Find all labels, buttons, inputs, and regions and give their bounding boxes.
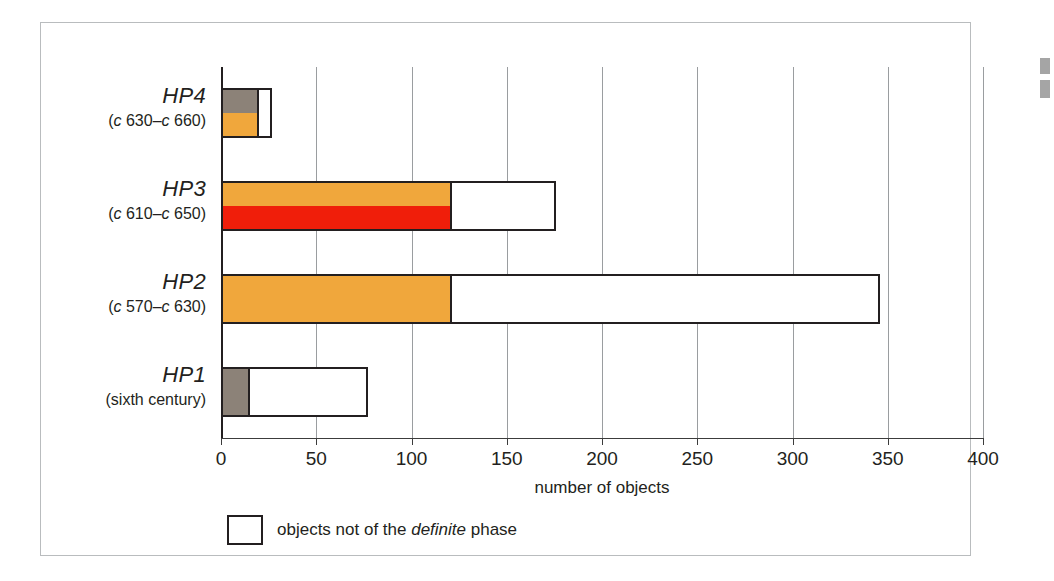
x-axis-title: number of objects — [221, 478, 983, 498]
bar-hp1-segment-colored — [223, 369, 248, 415]
category-range-hp4: (c 630–c 660) — [46, 112, 206, 131]
x-tick-label-350: 350 — [872, 448, 904, 470]
bar-hp3-segment-lower — [223, 206, 450, 229]
category-range-hp1: (sixth century) — [46, 391, 206, 410]
x-tick-100 — [412, 438, 413, 445]
x-tick-label-200: 200 — [586, 448, 618, 470]
legend-label: objects not of the definite phase — [277, 520, 517, 540]
legend: objects not of the definite phase — [227, 515, 517, 545]
x-tick-label-300: 300 — [777, 448, 809, 470]
category-name-hp4: HP4 — [46, 83, 206, 109]
category-range-hp2: (c 570–c 630) — [46, 298, 206, 317]
bar-hp4-segment-upper — [223, 90, 257, 113]
x-tick-300 — [793, 438, 794, 445]
category-name-hp3: HP3 — [46, 176, 206, 202]
x-tick-label-0: 0 — [216, 448, 227, 470]
figure-frame: 050100150200250300350400 HP4(c 630–c 660… — [40, 22, 971, 556]
bar-hp1-divider — [248, 367, 250, 417]
x-tick-250 — [697, 438, 698, 445]
category-label-hp4: HP4(c 630–c 660) — [46, 83, 206, 131]
white-square-swatch — [227, 515, 263, 545]
x-tick-label-400: 400 — [967, 448, 999, 470]
x-tick-label-50: 50 — [306, 448, 327, 470]
bar-hp2-segment-colored — [223, 276, 450, 322]
bar-hp3-segment-upper — [223, 183, 450, 206]
x-tick-label-150: 150 — [491, 448, 523, 470]
x-tick-label-250: 250 — [681, 448, 713, 470]
x-tick-200 — [602, 438, 603, 445]
x-tick-150 — [507, 438, 508, 445]
category-label-hp1: HP1(sixth century) — [46, 362, 206, 410]
category-label-hp2: HP2(c 570–c 630) — [46, 269, 206, 317]
x-tick-50 — [316, 438, 317, 445]
x-tick-0 — [221, 438, 222, 445]
category-label-hp3: HP3(c 610–c 650) — [46, 176, 206, 224]
x-tick-label-100: 100 — [396, 448, 428, 470]
category-name-hp1: HP1 — [46, 362, 206, 388]
bar-hp2-divider — [450, 274, 452, 324]
gridline-400 — [983, 67, 984, 438]
bar-hp3-divider — [450, 181, 452, 231]
x-tick-350 — [888, 438, 889, 445]
bar-hp4-divider — [257, 88, 259, 138]
category-range-hp3: (c 610–c 650) — [46, 205, 206, 224]
x-tick-400 — [983, 438, 984, 445]
page-edge-artifact — [1040, 58, 1050, 100]
bar-hp4-segment-lower — [223, 113, 257, 136]
category-name-hp2: HP2 — [46, 269, 206, 295]
